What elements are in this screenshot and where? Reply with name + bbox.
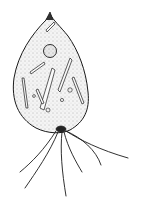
basal-body [56, 126, 66, 132]
illustration: Pen-and-ink stippled illustration of a f… [0, 0, 141, 212]
apex-spine [46, 12, 53, 20]
flagella [20, 131, 128, 196]
organism-drawing [0, 0, 141, 212]
